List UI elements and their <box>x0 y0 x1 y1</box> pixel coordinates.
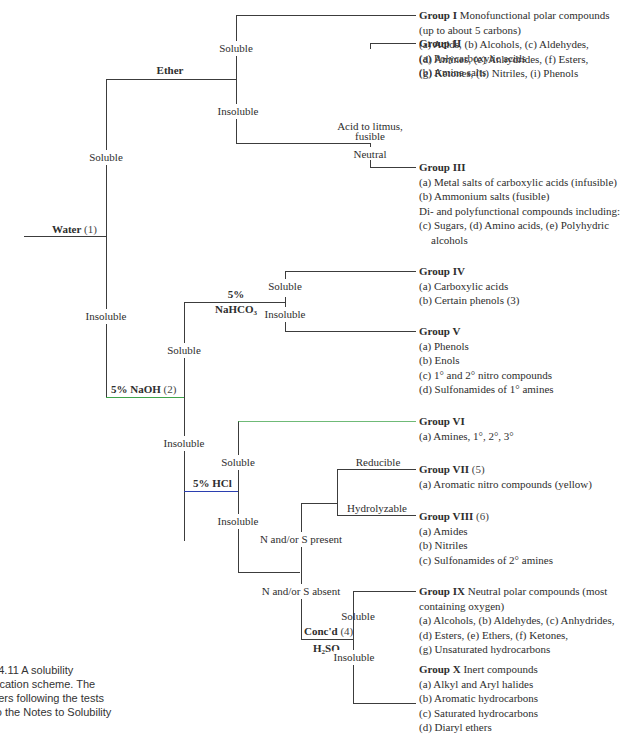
water-soluble-label: Soluble <box>89 150 123 165</box>
group-i-line <box>236 15 416 16</box>
group-ix-block: Group IX Neutral polar compounds (most c… <box>419 584 615 657</box>
nahco3-lower-tick <box>285 322 286 331</box>
group-v-line-1: (a) Phenols <box>419 339 554 354</box>
group-iv-line <box>285 271 416 272</box>
group-viii-desc: (6) <box>473 510 489 522</box>
hydrolyzable-label: Hydrolyzable <box>347 502 407 515</box>
group-vi-title: Group VI <box>419 414 514 429</box>
group-ix-line-4: (g) Unsaturated hydrocarbons <box>419 642 615 657</box>
h2so4-soluble-label: Soluble <box>341 610 375 623</box>
group-vi-line-1: (a) Amines, 1°, 2°, 3° <box>419 429 514 444</box>
h2so4-insoluble-label: Insoluble <box>334 650 375 665</box>
group-ix-desc: Neutral polar compounds (most <box>465 585 607 597</box>
water-insoluble-label: Insoluble <box>86 309 127 324</box>
group-vii-line <box>337 469 416 470</box>
group-viii-line-1: (a) Amides <box>419 524 553 539</box>
group-vii-block: Group VII (5) (a) Aromatic nitro compoun… <box>419 462 592 491</box>
nahco3-formula: NaHCO <box>215 303 254 315</box>
ns-absent-line <box>301 597 302 639</box>
naoh-soluble-label: Soluble <box>167 343 201 358</box>
caption-line-4: r to the Notes to Solubility <box>0 705 176 719</box>
group-v-line-3: (c) 1° and 2° nitro compounds <box>419 368 554 383</box>
litmus-fusible-label: fusible <box>355 130 385 143</box>
group-i-desc: Monofunctional polar compounds <box>457 9 609 21</box>
group-x-desc: Inert compounds <box>461 663 538 675</box>
naoh-insoluble-label: Insoluble <box>164 436 205 451</box>
group-iv-title: Group IV <box>419 264 520 279</box>
h2so4-line <box>301 639 354 640</box>
h2so4-test-label-1: Conc'd (4) <box>304 625 353 638</box>
group-ii-line <box>370 43 416 44</box>
ether-line <box>106 79 237 80</box>
group-iii-line <box>370 167 416 168</box>
group-x-line-3: (c) Saturated hydrocarbons <box>419 706 538 721</box>
hcl-branch-line <box>238 421 239 572</box>
water-note: (1) <box>84 223 97 235</box>
group-v-line <box>285 331 416 332</box>
group-ii-title: Group II <box>419 36 526 51</box>
water-name: Water <box>52 223 81 235</box>
group-i-line-1: (up to about 5 carbons) <box>419 23 609 38</box>
group-iii-line-5: alcohols <box>419 233 620 248</box>
caption-line-3: nbers following the tests <box>0 691 176 705</box>
nahco3-test-label-2: NaHCO3 <box>215 303 257 320</box>
ether-insoluble-label: Insoluble <box>218 104 259 119</box>
figure-caption: . 14.11 A solubility sification scheme. … <box>0 663 176 733</box>
naoh-test-label: 5% NaOH (2) <box>111 383 176 396</box>
water-test-label: Water (1) <box>52 223 97 236</box>
hcl-soluble-label: Soluble <box>221 455 255 470</box>
water-stem-line <box>24 236 107 237</box>
water-branch-line <box>106 79 107 397</box>
group-iv-line-1: (a) Carboxylic acids <box>419 279 520 294</box>
caption-line-5: ts. <box>0 719 176 733</box>
naoh-line <box>106 397 185 398</box>
hcl-insoluble-line <box>238 572 300 573</box>
hcl-line <box>184 491 238 492</box>
group-viii-line <box>337 515 416 516</box>
naoh-name: 5% NaOH <box>111 383 161 395</box>
h2so4-note: (4) <box>340 625 353 637</box>
ether-soluble-label: Soluble <box>219 41 253 56</box>
group-iv-line-2: (b) Certain phenols (3) <box>419 293 520 308</box>
nahco3-mid-tick <box>285 297 286 307</box>
group-i-title: Group I <box>419 9 457 21</box>
group-iv-block: Group IV (a) Carboxylic acids (b) Certai… <box>419 264 520 308</box>
group-v-title: Group V <box>419 324 554 339</box>
nahco3-upper-tick <box>285 271 286 279</box>
group-v-line-4: (d) Sulfonamides of 1° amines <box>419 382 554 397</box>
group-vii-desc: (5) <box>469 463 485 475</box>
ns-present-branch-line <box>337 469 338 516</box>
ether-insoluble-line <box>236 143 370 144</box>
nahco3-test-label-1: 5% <box>228 288 245 301</box>
naoh-note: (2) <box>164 383 177 395</box>
group-ii-line-1: (a) Polycarboxylic acids <box>419 51 526 66</box>
group-vi-block: Group VI (a) Amines, 1°, 2°, 3° <box>419 414 514 443</box>
group-iii-line-2: (b) Ammonium salts (fusible) <box>419 189 620 204</box>
group-iii-title: Group III <box>419 160 620 175</box>
group-x-line <box>353 703 416 704</box>
group-x-line-2: (b) Aromatic hydrocarbons <box>419 691 538 706</box>
group-vii-line-1: (a) Aromatic nitro compounds (yellow) <box>419 477 592 492</box>
group-ix-title: Group IX <box>419 585 465 597</box>
group-viii-line-2: (b) Nitriles <box>419 538 553 553</box>
ether-test-label: Ether <box>157 64 184 77</box>
nahco3-insoluble-label: Insoluble <box>265 308 306 321</box>
group-x-block: Group X Inert compounds (a) Alkyl and Ar… <box>419 662 538 735</box>
group-x-line-1: (a) Alkyl and Aryl halides <box>419 677 538 692</box>
reducible-label: Reducible <box>356 456 401 469</box>
ether-branch-line <box>236 15 237 144</box>
group-ix-line-3: (d) Esters, (e) Ethers, (f) Ketones, <box>419 628 615 643</box>
group-iii-block: Group III (a) Metal salts of carboxylic … <box>419 160 620 247</box>
ns-present-label: N and/or S present <box>260 532 342 547</box>
caption-line-1: . 14.11 A solubility <box>0 663 176 677</box>
group-v-line-2: (b) Enols <box>419 353 554 368</box>
group-vii-title: Group VII <box>419 463 469 475</box>
group-vi-line <box>238 421 416 422</box>
ns-present-line <box>301 503 337 504</box>
group-iii-line-4: (c) Sugars, (d) Amino acids, (e) Polyhyd… <box>419 218 620 233</box>
naoh-branch-line <box>184 302 185 541</box>
h2so4-branch-line <box>353 591 354 704</box>
caption-line-2: sification scheme. The <box>0 677 176 691</box>
h2so4-h: H <box>313 642 322 654</box>
group-v-block: Group V (a) Phenols (b) Enols (c) 1° and… <box>419 324 554 397</box>
